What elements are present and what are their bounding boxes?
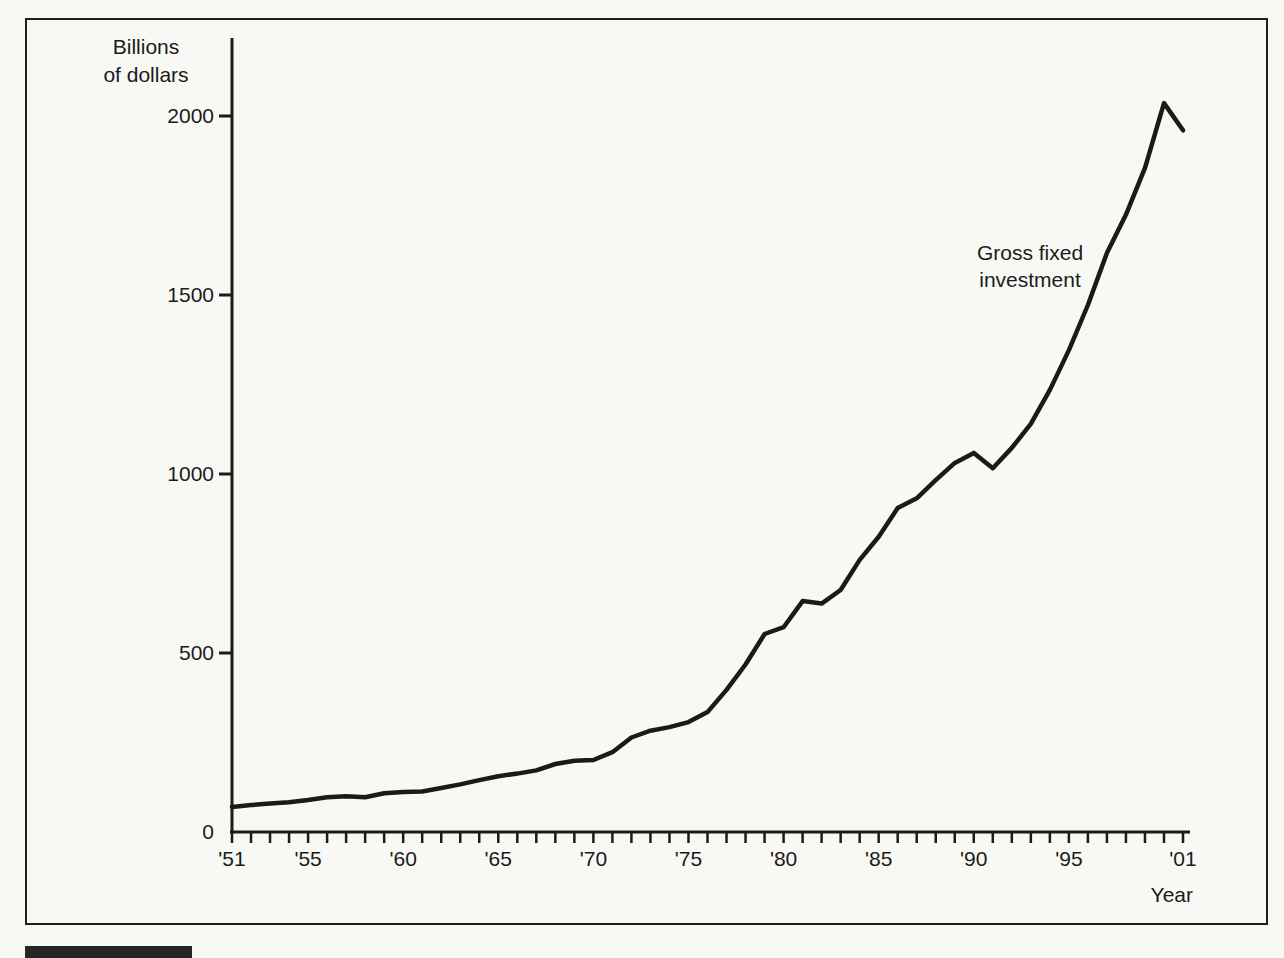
y-tick-label: 1500 [167, 283, 214, 306]
x-tick-label: '01 [1169, 847, 1196, 870]
x-tick-label: '90 [960, 847, 987, 870]
x-tick-label: '60 [389, 847, 416, 870]
y-tick-label: 2000 [167, 104, 214, 127]
data-line [232, 103, 1183, 807]
x-tick-label: '51 [218, 847, 245, 870]
y-axis-title: Billions of dollars [62, 33, 230, 89]
figure-label-bar [25, 946, 192, 958]
y-tick-label: 0 [202, 820, 214, 843]
x-tick-label: '85 [865, 847, 892, 870]
x-tick-label: '55 [294, 847, 321, 870]
x-tick-label: '95 [1055, 847, 1082, 870]
y-tick-label: 1000 [167, 462, 214, 485]
x-tick-label: '75 [675, 847, 702, 870]
series-annotation: Gross fixed investment [930, 239, 1130, 293]
x-tick-label: '80 [770, 847, 797, 870]
x-tick-label: '70 [580, 847, 607, 870]
y-tick-label: 500 [179, 641, 214, 664]
x-tick-label: '65 [485, 847, 512, 870]
x-axis-title: Year [1093, 883, 1193, 907]
